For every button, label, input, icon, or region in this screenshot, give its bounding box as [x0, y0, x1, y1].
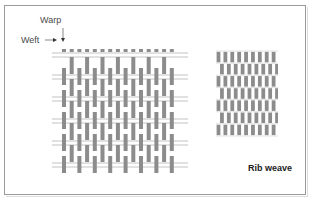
warp-label: Warp [40, 16, 61, 25]
compact-weave-surface [216, 50, 286, 137]
open-weave-structure [52, 49, 188, 173]
weft-label: Weft [21, 36, 39, 45]
diagram-caption: Rib weave [248, 163, 292, 173]
weft-arrow-icon [45, 38, 57, 42]
warp-arrow-icon [61, 28, 65, 42]
